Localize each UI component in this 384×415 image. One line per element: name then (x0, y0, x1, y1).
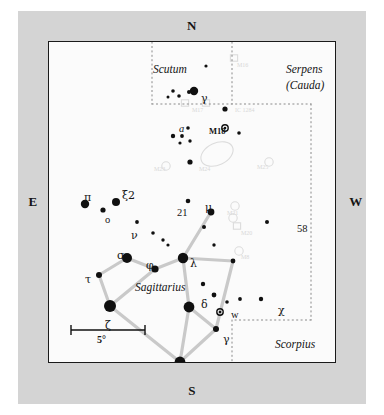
star-6 (222, 106, 227, 111)
faint-nebula-symbol-0 (230, 55, 237, 61)
star-15 (208, 209, 215, 216)
constellation-line-11 (216, 261, 233, 329)
cardinal-west-label: W (344, 194, 368, 210)
star-13 (187, 159, 192, 164)
star-24 (166, 243, 169, 246)
constellation-line-8 (183, 258, 189, 307)
star-22 (151, 231, 155, 235)
star-18 (100, 207, 105, 212)
star-0 (204, 64, 207, 67)
star-27 (122, 253, 132, 263)
star-25 (212, 243, 215, 246)
star-16 (81, 200, 89, 208)
star-29 (231, 259, 236, 264)
star-20 (265, 220, 269, 224)
faint-cluster-symbol-4 (265, 158, 273, 166)
star-10 (180, 134, 184, 138)
star-chart-figure: N S E W M16M17IC 1284M23M24M25M21M20M8 γ… (0, 0, 384, 415)
star-26 (178, 253, 188, 263)
faint-nebula-symbol-1 (181, 100, 188, 106)
star-9 (171, 134, 175, 138)
star-31 (201, 282, 205, 286)
cardinal-south-label: S (0, 383, 384, 399)
star-14 (186, 199, 191, 204)
M24-star-cloud (197, 137, 237, 171)
M18-marker-core (224, 127, 227, 130)
constellation-line-5 (110, 269, 155, 306)
star-28 (151, 265, 158, 272)
star-21 (202, 225, 206, 229)
faint-nebula-layer (162, 55, 273, 255)
star-17 (112, 198, 120, 206)
star-11 (178, 141, 181, 144)
constellation-line-12 (183, 258, 233, 261)
faint-cluster-symbol-5 (231, 202, 239, 210)
star-23 (161, 238, 164, 241)
star-36 (238, 297, 242, 301)
star-34 (212, 293, 217, 298)
star-3 (177, 94, 181, 98)
star-12 (188, 139, 191, 142)
faint-cluster-symbol-3 (162, 162, 170, 170)
cardinal-north-label: N (0, 18, 384, 34)
star-2 (167, 96, 170, 99)
faint-nebula-symbol-2 (202, 100, 209, 106)
sky-map-svg (49, 42, 335, 362)
star-5 (190, 87, 198, 95)
w-marker-core (219, 311, 222, 314)
faint-nebula-symbol-6 (233, 223, 240, 229)
star-19 (135, 220, 139, 224)
constellation-boundary-layer (152, 42, 311, 362)
faint-cluster-symbol-7 (229, 214, 237, 222)
star-38 (213, 326, 219, 332)
star-35 (225, 300, 229, 304)
star-8 (237, 131, 241, 135)
star-32 (104, 300, 116, 312)
star-7 (186, 126, 190, 130)
cardinal-east-label: E (22, 194, 44, 210)
star-33 (184, 302, 195, 313)
constellation-line-layer (99, 212, 233, 362)
star-1 (171, 89, 175, 93)
star-37 (259, 297, 263, 301)
constellation-line-0 (183, 212, 211, 258)
star-layer (81, 64, 269, 362)
star-30 (96, 272, 102, 278)
faint-cluster-symbol-8 (235, 247, 243, 255)
sky-map-area: M16M17IC 1284M23M24M25M21M20M8 γaM18πξ2o… (48, 41, 336, 363)
